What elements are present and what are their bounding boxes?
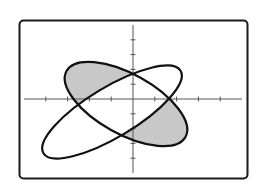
graph-screen: Graphing calculator window showing two i…: [0, 0, 258, 184]
graph-plot: [0, 0, 258, 184]
